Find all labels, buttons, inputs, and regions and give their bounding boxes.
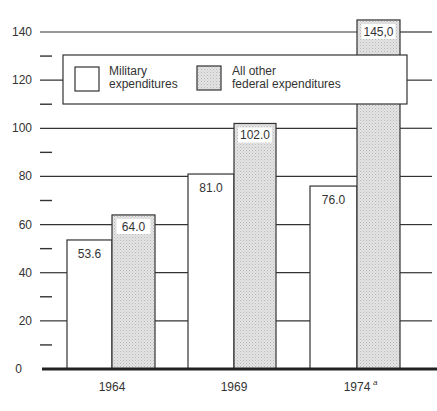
value-label-military: 81.0 bbox=[199, 181, 223, 195]
bar-military bbox=[310, 186, 357, 369]
bar-other bbox=[234, 123, 276, 369]
y-tick-label: 80 bbox=[19, 169, 33, 183]
y-tick-label: 20 bbox=[19, 314, 33, 328]
x-axis-labels: 196419691974a bbox=[99, 378, 378, 394]
bar-other bbox=[112, 215, 155, 369]
footnote-marker: a bbox=[373, 378, 378, 387]
value-label-military: 53.6 bbox=[78, 247, 102, 261]
legend-swatch-other bbox=[197, 66, 221, 90]
legend-label-other-1: All other bbox=[232, 64, 276, 78]
legend-label-military-2: expenditures bbox=[109, 77, 178, 91]
value-label-other: 64.0 bbox=[122, 220, 146, 234]
minor-ticks bbox=[40, 56, 52, 345]
y-tick-label: 100 bbox=[12, 121, 32, 135]
legend: Military expenditures All other federal … bbox=[63, 55, 407, 104]
y-tick-label: 40 bbox=[19, 266, 33, 280]
legend-label-military-1: Military bbox=[109, 64, 147, 78]
bar-chart: 53.664.081.0102.076.0145,0 2040608010012… bbox=[0, 0, 437, 411]
y-tick-label: 60 bbox=[19, 218, 33, 232]
value-label-military: 76.0 bbox=[322, 193, 346, 207]
y-tick-label: 120 bbox=[12, 73, 32, 87]
value-label-other: 102.0 bbox=[240, 128, 270, 142]
x-category-label: 1964 bbox=[99, 380, 126, 394]
legend-swatch-military bbox=[75, 67, 99, 91]
x-category-label: 1969 bbox=[221, 380, 248, 394]
value-label-other: 145,0 bbox=[363, 25, 393, 39]
legend-label-other-2: federal expenditures bbox=[232, 77, 341, 91]
bar-military bbox=[188, 174, 234, 369]
y-tick-label: 0 bbox=[15, 362, 22, 376]
y-axis-labels: 204060801001201400 bbox=[12, 25, 32, 376]
x-category-label: 1974 bbox=[344, 380, 371, 394]
y-tick-label: 140 bbox=[12, 25, 32, 39]
